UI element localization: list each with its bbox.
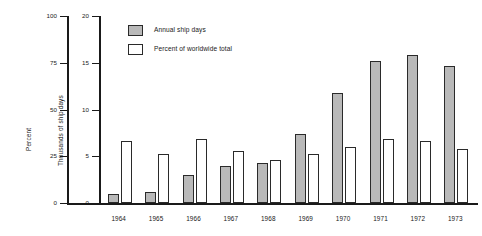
- x-axis-label: 1969: [287, 215, 324, 222]
- axis-tick-label: 75: [35, 59, 57, 66]
- bar-percent-worldwide-total: [420, 141, 431, 203]
- bar-percent-worldwide-total: [158, 154, 169, 203]
- bar-annual-ship-days: [370, 61, 381, 203]
- x-axis-baseline: [67, 203, 478, 205]
- x-axis-label: 1973: [437, 215, 474, 222]
- bar-annual-ship-days: [444, 66, 455, 203]
- bar-annual-ship-days: [332, 93, 343, 203]
- bar-annual-ship-days: [108, 194, 119, 203]
- axis-tick: [92, 110, 99, 111]
- x-axis-label: 1970: [324, 215, 361, 222]
- legend-swatch-percent-worldwide: [128, 44, 143, 55]
- bar-annual-ship-days: [183, 175, 194, 203]
- axis-tick-label: 0: [35, 199, 57, 206]
- axis-tick: [92, 16, 99, 17]
- axis-tick-label: 15: [67, 59, 89, 66]
- axis-tick: [92, 63, 99, 64]
- x-axis-label: 1971: [362, 215, 399, 222]
- axis-tick: [92, 156, 99, 157]
- ship-days-axis-line: [99, 16, 101, 205]
- x-axis-label: 1972: [399, 215, 436, 222]
- legend-label-percent-worldwide: Percent of worldwide total: [154, 45, 232, 52]
- axis-tick: [60, 63, 67, 64]
- axis-tick-label: 100: [35, 12, 57, 19]
- bar-percent-worldwide-total: [121, 141, 132, 203]
- bar-annual-ship-days: [220, 166, 231, 203]
- ship-days-axis-title: Thousands of ship days: [57, 95, 64, 166]
- x-axis-label: 1968: [250, 215, 287, 222]
- x-axis-label: 1966: [175, 215, 212, 222]
- x-axis-label: 1965: [137, 215, 174, 222]
- bar-percent-worldwide-total: [196, 139, 207, 203]
- legend-label-annual-ship-days: Annual ship days: [154, 26, 206, 33]
- bar-percent-worldwide-total: [308, 154, 319, 203]
- bar-percent-worldwide-total: [457, 149, 468, 203]
- percent-axis-title: Percent: [25, 128, 32, 151]
- bar-percent-worldwide-total: [383, 139, 394, 203]
- axis-tick-label: 20: [67, 12, 89, 19]
- axis-tick-label: 5: [67, 152, 89, 159]
- x-axis-label: 1967: [212, 215, 249, 222]
- bar-annual-ship-days: [295, 134, 306, 203]
- axis-tick-label: 10: [67, 106, 89, 113]
- legend-swatch-annual-ship-days: [128, 25, 143, 36]
- axis-tick: [60, 203, 67, 204]
- bar-chart: Percent 0255075100 Thousands of ship day…: [0, 0, 482, 236]
- x-axis-label: 1964: [100, 215, 137, 222]
- bar-annual-ship-days: [257, 163, 268, 203]
- axis-tick-label: 25: [35, 152, 57, 159]
- bar-percent-worldwide-total: [345, 147, 356, 203]
- bar-annual-ship-days: [407, 55, 418, 203]
- bar-annual-ship-days: [145, 192, 156, 203]
- bar-percent-worldwide-total: [233, 151, 244, 203]
- axis-tick-label: 50: [35, 106, 57, 113]
- bar-percent-worldwide-total: [270, 160, 281, 203]
- axis-tick: [60, 16, 67, 17]
